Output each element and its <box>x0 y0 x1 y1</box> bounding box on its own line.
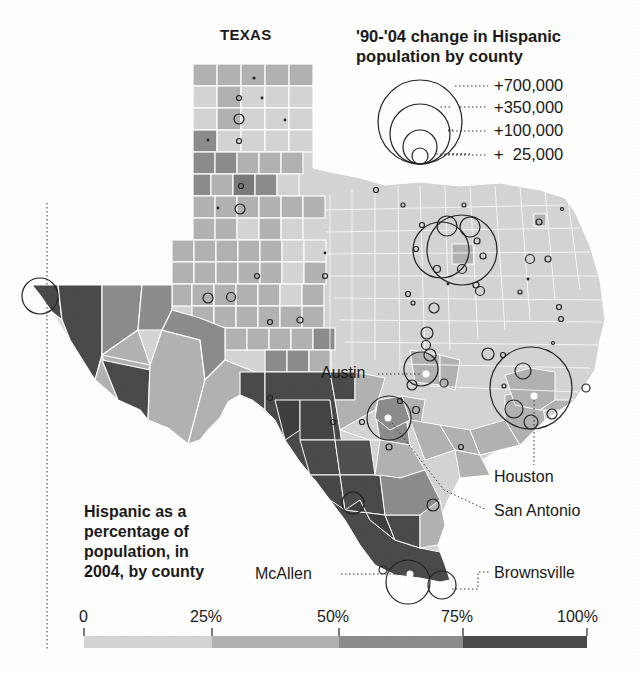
size-legend-title-line1: '90-'04 change in Hispanic <box>356 26 561 46</box>
legend-tick-100: 100% <box>557 608 598 626</box>
color-legend-title-line: 2004, by county <box>84 562 204 582</box>
color-legend-title: Hispanic as a percentage of population, … <box>84 502 204 582</box>
color-legend-title-line: population, in <box>84 542 204 562</box>
size-legend-700k: +700,000 <box>494 76 563 95</box>
color-legend-title-line: Hispanic as a <box>84 502 204 522</box>
city-label-brownsville: Brownsville <box>494 564 575 582</box>
size-legend-title-line2: population by county <box>356 46 561 66</box>
legend-tick-75: 75% <box>441 608 473 626</box>
color-legend-title-line: percentage of <box>84 522 204 542</box>
city-label-san-antonio: San Antonio <box>494 502 580 520</box>
legend-tick-25: 25% <box>190 608 222 626</box>
size-legend-100k: +100,000 <box>494 121 563 140</box>
size-legend-350k: +350,000 <box>494 98 563 117</box>
size-legend-25k: + 25,000 <box>494 145 563 164</box>
legend-tick-0: 0 <box>79 608 88 626</box>
size-legend-title: '90-'04 change in Hispanic population by… <box>356 26 561 66</box>
city-label-houston: Houston <box>494 468 554 486</box>
legend-tick-50: 50% <box>317 608 349 626</box>
city-label-austin: Austin <box>321 364 365 382</box>
map-title: TEXAS <box>220 26 272 43</box>
city-label-mcallen: McAllen <box>255 565 312 583</box>
